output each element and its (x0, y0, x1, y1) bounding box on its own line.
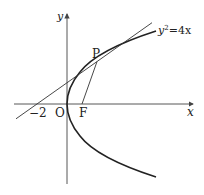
parabola-diagram: y x P −2 O F y2=4x (0, 0, 204, 195)
y-axis-label: y (56, 10, 64, 23)
origin-label: O (55, 106, 65, 120)
point-p-label: P (92, 47, 100, 61)
x-intercept-label: −2 (29, 106, 47, 120)
focus-label: F (79, 106, 87, 120)
equation-label: y2=4x (157, 24, 192, 37)
x-axis-label: x (187, 105, 194, 119)
